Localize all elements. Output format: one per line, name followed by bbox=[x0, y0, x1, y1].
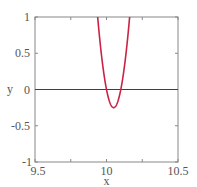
x-tick-label-10.5: 10.5 bbox=[168, 164, 189, 178]
chart: 1 0.5 0 -0.5 -1 9.5 10 10.5 x y bbox=[0, 0, 197, 187]
y-tick-label-0: 0 bbox=[24, 83, 30, 97]
x-axis-label: x bbox=[104, 174, 110, 187]
y-tick-label-neg0.5: -0.5 bbox=[11, 119, 30, 133]
y-axis-label: y bbox=[7, 82, 13, 96]
y-tick-label-0.5: 0.5 bbox=[15, 46, 30, 60]
x-tick-label-9.5: 9.5 bbox=[31, 164, 46, 178]
parabola-curve bbox=[98, 17, 130, 108]
y-tick-label-1: 1 bbox=[24, 10, 30, 24]
